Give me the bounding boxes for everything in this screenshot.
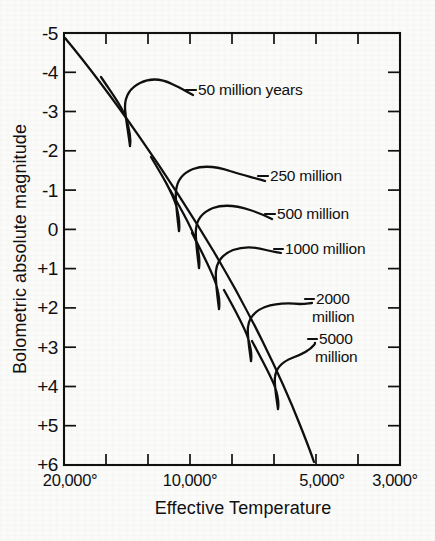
curve-label-250: 250 million: [270, 167, 342, 184]
y-axis-ticks-right: [388, 72, 400, 425]
curve-label-5000-line1: 5000: [319, 330, 353, 347]
y-tick-label: 0: [48, 219, 58, 240]
isochrone-1000-curve: [192, 233, 281, 309]
x-tick-label: 10,000°: [163, 471, 217, 489]
isochrone-chart: -5 -4 -3 -2 -1 0 +1 +2 +3 +4 +5 +6 20,00…: [0, 0, 435, 541]
isochrone-500-curve: [170, 190, 272, 268]
curve-label-2000-line1: 2000: [316, 290, 350, 307]
y-tick-label: +5: [37, 415, 58, 436]
x-tick-label: 5,000°: [299, 471, 345, 489]
y-tick-label: -3: [42, 101, 58, 122]
y-tick-label: +2: [37, 297, 58, 318]
x-tick-label: 3,000°: [372, 471, 418, 489]
y-tick-label: -5: [42, 23, 58, 44]
x-axis-title: Effective Temperature: [155, 498, 332, 518]
isochrone-50-curve: [101, 77, 193, 146]
x-axis-tick-labels: 20,000° 10,000° 5,000° 3,000°: [43, 471, 418, 489]
x-tick-label: 20,000°: [43, 471, 97, 489]
y-tick-label: +3: [37, 337, 58, 358]
isochrone-250-curve: [151, 157, 265, 231]
y-tick-label: +4: [37, 376, 59, 397]
curve-label-50: 50 million years: [198, 81, 303, 98]
x-axis-ticks-top: [106, 33, 358, 44]
isochrone-5000-curve: [252, 341, 315, 409]
y-axis-ticks-left: [64, 72, 76, 425]
y-tick-label: -2: [42, 140, 58, 161]
y-tick-label: +1: [37, 258, 58, 279]
curve-label-1000: 1000 million: [285, 240, 365, 257]
curve-labels: 50 million years 250 million 500 million…: [198, 81, 365, 365]
y-axis-tick-labels: -5 -4 -3 -2 -1 0 +1 +2 +3 +4 +5 +6: [37, 23, 59, 475]
curve-label-2000-line2: million: [312, 308, 355, 325]
curve-label-5000-line2: million: [315, 348, 358, 365]
y-tick-label: -4: [42, 62, 59, 83]
y-tick-label: -1: [42, 180, 58, 201]
y-axis-title: Bolometric absolute magnitude: [10, 124, 30, 374]
x-axis-ticks-bottom: [106, 454, 358, 465]
hr-diagram-figure: -5 -4 -3 -2 -1 0 +1 +2 +3 +4 +5 +6 20,00…: [0, 0, 435, 541]
curve-label-500: 500 million: [277, 205, 349, 222]
